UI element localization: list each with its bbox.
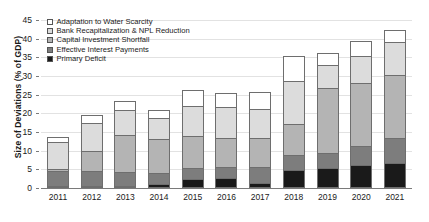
legend-item-3[interactable]: Effective Interest Payments — [47, 46, 190, 54]
bar-segment[interactable] — [114, 101, 136, 110]
bar-segment[interactable] — [81, 115, 103, 123]
y-tick-mark-25 — [36, 95, 39, 96]
bar-segment[interactable] — [81, 171, 103, 186]
bar-segment[interactable] — [283, 124, 305, 155]
bar-segment[interactable] — [384, 75, 406, 138]
y-tick-label-35: 35 — [23, 52, 32, 62]
y-axis-ticks: 051015202530354045 — [0, 20, 36, 188]
legend-swatch-icon — [47, 19, 53, 25]
bar-segment[interactable] — [215, 167, 237, 177]
bar-segment[interactable] — [215, 107, 237, 138]
bar-column-2017[interactable] — [249, 92, 271, 188]
bar-segment[interactable] — [350, 165, 372, 188]
bar-segment[interactable] — [350, 56, 372, 83]
legend-label: Adaptation to Water Scarcity — [57, 18, 153, 26]
bar-column-2012[interactable] — [81, 115, 103, 188]
bar-column-2020[interactable] — [350, 41, 372, 188]
bar-segment[interactable] — [182, 90, 204, 106]
bar-segment[interactable] — [81, 151, 103, 172]
bar-segment[interactable] — [148, 139, 170, 173]
legend-item-2[interactable]: Capital Investment Shortfall — [47, 36, 190, 44]
bar-segment[interactable] — [384, 42, 406, 75]
legend-swatch-icon — [47, 56, 53, 62]
bar-segment[interactable] — [249, 92, 271, 109]
legend-swatch-icon — [47, 28, 53, 34]
y-tick-label-10: 10 — [23, 146, 32, 156]
bar-segment[interactable] — [283, 81, 305, 124]
bar-segment[interactable] — [114, 172, 136, 186]
x-tick-label-2018: 2018 — [283, 192, 305, 212]
x-tick-label-2021: 2021 — [384, 192, 406, 212]
bar-segment[interactable] — [81, 123, 103, 151]
x-tick-label-2015: 2015 — [182, 192, 204, 212]
bar-segment[interactable] — [384, 138, 406, 163]
bar-segment[interactable] — [317, 65, 339, 89]
x-tick-label-2012: 2012 — [81, 192, 103, 212]
y-tick-mark-15 — [36, 132, 39, 133]
bar-segment[interactable] — [148, 173, 170, 183]
bar-segment[interactable] — [317, 168, 339, 188]
x-tick-label-2017: 2017 — [249, 192, 271, 212]
legend-item-1[interactable]: Bank Recapitalization & NPL Reduction — [47, 27, 190, 35]
bar-segment[interactable] — [215, 138, 237, 167]
y-tick-mark-40 — [36, 39, 39, 40]
bar-segment[interactable] — [215, 93, 237, 106]
y-tick-label-5: 5 — [27, 164, 32, 174]
x-tick-label-2014: 2014 — [148, 192, 170, 212]
bar-column-2013[interactable] — [114, 101, 136, 188]
bar-segment[interactable] — [182, 179, 204, 188]
y-tick-label-25: 25 — [23, 90, 32, 100]
y-tick-mark-0 — [36, 188, 39, 189]
x-tick-label-2013: 2013 — [114, 192, 136, 212]
y-tick-label-45: 45 — [23, 15, 32, 25]
bar-column-2014[interactable] — [148, 110, 170, 188]
bar-column-2011[interactable] — [47, 137, 69, 188]
bar-segment[interactable] — [182, 168, 204, 179]
y-tick-label-40: 40 — [23, 34, 32, 44]
y-tick-mark-30 — [36, 76, 39, 77]
y-tick-label-15: 15 — [23, 127, 32, 137]
bar-segment[interactable] — [148, 118, 170, 139]
bar-segment[interactable] — [114, 110, 136, 135]
legend-item-0[interactable]: Adaptation to Water Scarcity — [47, 18, 190, 26]
y-tick-label-20: 20 — [23, 108, 32, 118]
y-tick-mark-20 — [36, 113, 39, 114]
legend-label: Primary Deficit — [57, 55, 106, 63]
bar-segment[interactable] — [317, 153, 339, 168]
bar-segment[interactable] — [384, 30, 406, 42]
y-tick-mark-5 — [36, 169, 39, 170]
legend-item-4[interactable]: Primary Deficit — [47, 55, 190, 63]
bar-segment[interactable] — [249, 109, 271, 138]
bar-segment[interactable] — [317, 88, 339, 153]
stacked-bar-chart: Size of Deviations (% of GDP) 0510152025… — [0, 0, 429, 222]
bar-segment[interactable] — [47, 142, 69, 169]
y-tick-label-30: 30 — [23, 71, 32, 81]
bar-column-2021[interactable] — [384, 30, 406, 188]
bar-segment[interactable] — [283, 170, 305, 188]
bar-segment[interactable] — [317, 53, 339, 65]
bar-column-2018[interactable] — [283, 56, 305, 188]
x-tick-label-2019: 2019 — [317, 192, 339, 212]
legend-swatch-icon — [47, 47, 53, 53]
bar-segment[interactable] — [384, 163, 406, 188]
bar-segment[interactable] — [215, 178, 237, 188]
bar-segment[interactable] — [350, 146, 372, 165]
bar-segment[interactable] — [47, 171, 69, 186]
legend-swatch-icon — [47, 37, 53, 43]
x-tick-label-2016: 2016 — [215, 192, 237, 212]
bar-column-2019[interactable] — [317, 53, 339, 188]
bar-segment[interactable] — [350, 83, 372, 146]
bar-column-2016[interactable] — [215, 93, 237, 188]
bar-segment[interactable] — [350, 41, 372, 56]
bar-segment[interactable] — [148, 110, 170, 119]
bar-segment[interactable] — [182, 106, 204, 136]
bar-segment[interactable] — [182, 136, 204, 168]
bar-column-2015[interactable] — [182, 90, 204, 188]
bar-segment[interactable] — [283, 56, 305, 81]
x-tick-label-2011: 2011 — [47, 192, 69, 212]
bar-segment[interactable] — [249, 167, 271, 183]
bar-segment[interactable] — [114, 135, 136, 172]
bar-segment[interactable] — [283, 155, 305, 170]
bar-segment[interactable] — [249, 138, 271, 167]
x-axis-labels: 2011201220132014201520162017201820192020… — [41, 192, 412, 212]
